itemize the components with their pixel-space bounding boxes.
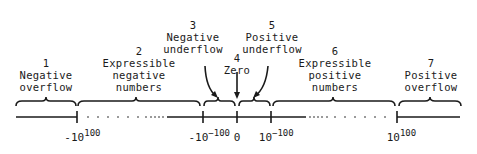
region-text-line: Positive [405, 69, 458, 81]
tick-label: 10100 [387, 131, 417, 144]
region-text-line: Expressible [103, 57, 176, 69]
region-text-line: Negative [20, 69, 73, 81]
brace-expressible-positive [273, 97, 395, 106]
region-label-5: 5Positiveunderflow [242, 19, 302, 55]
tick-label: 0 [234, 131, 241, 144]
region-text-line: Expressible [299, 57, 372, 69]
brace-negative-underflow [204, 97, 235, 106]
tick-label: -10−100 [188, 131, 230, 144]
region-text-line: Negative [163, 31, 223, 43]
region-number: 6 [299, 45, 372, 57]
region-label-4: 4Zero [224, 52, 251, 76]
region-text-line: negative [103, 69, 176, 81]
brace-positive-underflow [239, 97, 270, 106]
region-label-3: 3Negativeunderflow [163, 19, 223, 55]
region-text-line: underflow [163, 43, 223, 55]
region-text-line: Positive [242, 31, 302, 43]
brace-positive-overflow [399, 97, 461, 106]
arrow-negative-underflow [205, 66, 216, 96]
brace-expressible-negative [78, 97, 200, 106]
region-text-line: positive [299, 69, 372, 81]
region-label-7: 7Positiveoverflow [405, 57, 458, 93]
tick-label: -10100 [64, 131, 100, 144]
region-text-line: Zero [224, 64, 251, 76]
region-label-6: 6Expressiblepositivenumbers [299, 45, 372, 93]
brace-negative-overflow [16, 97, 76, 106]
region-number: 7 [405, 57, 458, 69]
region-text-line: overflow [20, 81, 73, 93]
region-number: 5 [242, 19, 302, 31]
region-number: 1 [20, 57, 73, 69]
region-text-line: numbers [103, 81, 176, 93]
region-text-line: overflow [405, 81, 458, 93]
arrow-positive-underflow [255, 66, 268, 96]
region-number: 3 [163, 19, 223, 31]
region-label-1: 1Negativeoverflow [20, 57, 73, 93]
tick-label: 10−100 [259, 131, 294, 144]
region-text-line: numbers [299, 81, 372, 93]
region-text-line: underflow [242, 43, 302, 55]
